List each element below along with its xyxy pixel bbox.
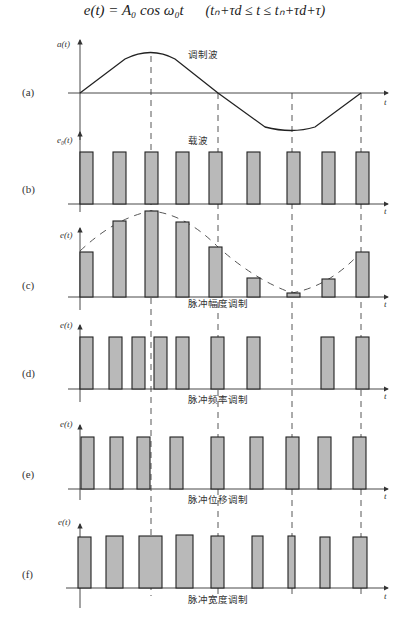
pulse-modulation-diagram: a(t) t 调制波 (a) e₀(t) t 载波 (b) e(t xyxy=(0,0,409,620)
axis-label-e-t: e(t) xyxy=(60,320,73,330)
t-axis-label: t xyxy=(384,491,387,501)
panel-label-e: (e) xyxy=(22,468,35,481)
panel-e-ppm: e(t) t 脉冲位移调制 (e) xyxy=(22,419,388,505)
panel-title-pam: 脉冲幅度调制 xyxy=(188,298,248,309)
t-axis-label: t xyxy=(384,591,387,601)
panel-c-pam: e(t) t 脉冲幅度调制 (c) xyxy=(22,211,388,310)
panel-f-pwm: e(t) t 脉冲宽度调制 (f) xyxy=(22,517,388,608)
panel-a-modulating-wave: a(t) t 调制波 (a) xyxy=(22,39,388,140)
t-axis-label: t xyxy=(384,97,387,107)
panel-label-c: (c) xyxy=(22,279,35,292)
panel-title-carrier: 载波 xyxy=(188,135,208,146)
panel-label-b: (b) xyxy=(22,183,35,196)
panel-title-pfm: 脉冲频率调制 xyxy=(188,394,248,405)
axis-label-e-t: e(t) xyxy=(58,517,71,527)
panel-label-f: (f) xyxy=(22,568,33,581)
axis-label-e-t: e(t) xyxy=(60,230,73,240)
t-axis-label: t xyxy=(384,391,387,401)
axis-label-e0-t: e₀(t) xyxy=(57,135,73,145)
panel-title-pwm: 脉冲宽度调制 xyxy=(188,594,248,605)
reference-dashed-lines xyxy=(151,56,361,596)
panel-label-d: (d) xyxy=(22,367,35,380)
t-axis-label: t xyxy=(384,299,387,309)
panel-label-a: (a) xyxy=(22,86,35,99)
axis-label-a-t: a(t) xyxy=(57,39,70,49)
panel-title-modulating-wave: 调制波 xyxy=(188,49,218,60)
axis-label-e-t: e(t) xyxy=(60,419,73,429)
panel-b-carrier: e₀(t) t 载波 (b) xyxy=(22,132,388,216)
t-axis-label: t xyxy=(384,206,387,216)
panel-title-ppm: 脉冲位移调制 xyxy=(188,494,248,505)
panel-d-pfm: e(t) t 脉冲频率调制 (d) xyxy=(22,320,388,405)
